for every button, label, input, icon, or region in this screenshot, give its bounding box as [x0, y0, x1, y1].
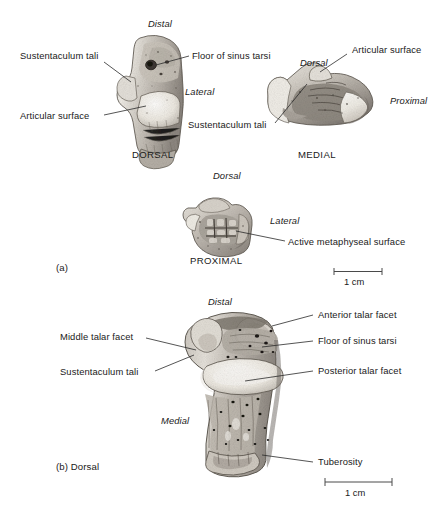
leader-sustentaculum-tali-b	[155, 355, 194, 371]
callout-tuberosity: Tuberosity	[318, 456, 362, 467]
leader-anterior-talar-facet	[272, 315, 313, 326]
orientation-label-dorsal-medial: Dorsal	[300, 57, 328, 68]
scale-bar-label-b: 1 cm	[345, 487, 365, 498]
orientation-label-distal-a: Distal	[148, 18, 172, 29]
specimen-dorsal-large	[185, 312, 283, 476]
callout-posterior-talar-facet: Posterior talar facet	[318, 365, 401, 376]
leader-sustentaculum-tali-a	[104, 62, 131, 82]
view-caption-proximal: PROXIMAL	[190, 255, 242, 266]
orientation-label-proximal-medial: Proximal	[390, 95, 427, 106]
callout-floor-of-sinus-tarsi-a: Floor of sinus tarsi	[192, 50, 271, 61]
specimen-artwork	[0, 0, 447, 507]
callout-articular-surface-medial: Articular surface	[352, 44, 421, 55]
callout-articular-surface-a: Articular surface	[20, 110, 89, 121]
specimen-proximal-view	[183, 198, 252, 257]
callout-sustentaculum-tali-medial: Sustentaculum tali	[188, 119, 266, 130]
scale-bar-a	[334, 268, 382, 275]
orientation-label-lateral-a: Lateral	[185, 86, 214, 97]
view-caption-medial: MEDIAL	[298, 149, 336, 160]
scale-bar-label-a: 1 cm	[344, 276, 364, 287]
panel-label-a: (a)	[56, 262, 68, 273]
callout-sustentaculum-tali-a: Sustentaculum tali	[20, 50, 98, 61]
scale-bar-b	[325, 478, 392, 486]
callout-anterior-talar-facet: Anterior talar facet	[318, 309, 397, 320]
anatomical-figure: Distal Sustentaculum tali Articular surf…	[0, 0, 447, 507]
orientation-label-lateral-proximal: Lateral	[270, 215, 299, 226]
callout-active-metaphyseal-surface: Active metaphyseal surface	[288, 236, 405, 247]
callout-sustentaculum-tali-b: Sustentaculum tali	[60, 366, 138, 377]
orientation-label-medial-b: Medial	[161, 415, 189, 426]
orientation-label-dorsal-proximal: Dorsal	[213, 170, 241, 181]
panel-label-b: (b) Dorsal	[56, 461, 99, 472]
callout-floor-of-sinus-tarsi-b: Floor of sinus tarsi	[318, 335, 397, 346]
orientation-label-distal-b: Distal	[208, 296, 232, 307]
callout-middle-talar-facet: Middle talar facet	[60, 331, 133, 342]
view-caption-dorsal: DORSAL	[132, 149, 174, 160]
